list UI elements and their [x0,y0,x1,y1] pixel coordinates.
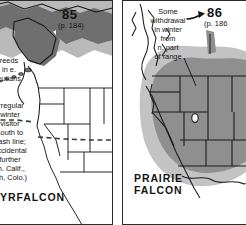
panel-border-right [122,0,246,225]
panel-border-left [0,0,113,225]
map-panel-prairie-falcon: 86 (p. 186 Some withdrawal in winter fro… [122,0,246,225]
range-map-figure: 85 (p. 184) reeds in e. eutians Irregula… [0,0,246,225]
map-panel-gyrfalcon: 85 (p. 184) reeds in e. eutians Irregula… [0,0,113,225]
